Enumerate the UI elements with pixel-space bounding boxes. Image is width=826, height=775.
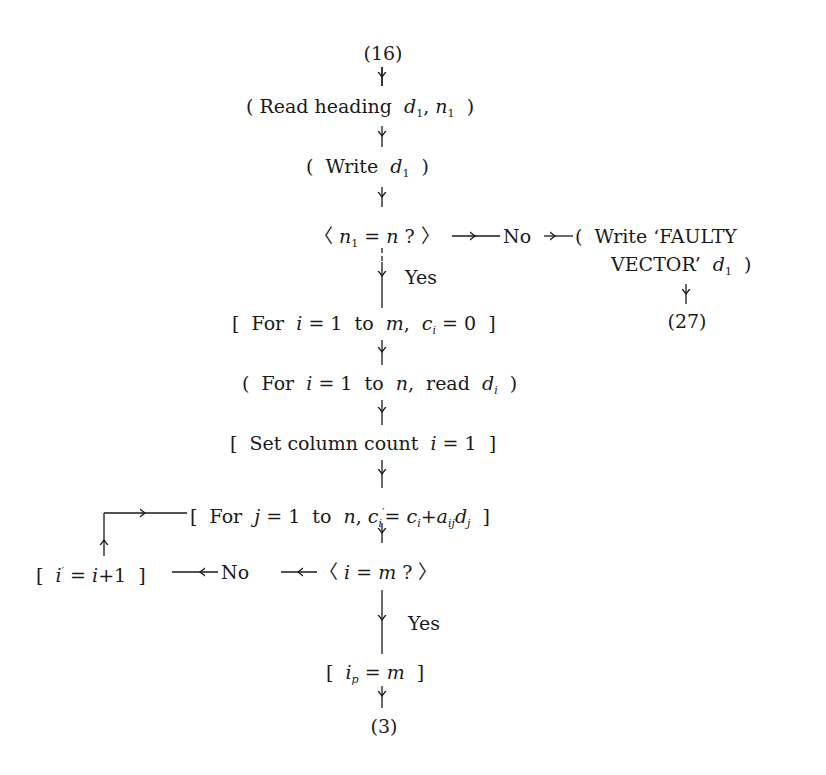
edge-label-yes: Yes bbox=[408, 612, 440, 634]
node-set-column-count: [ Set column count i = 1 ] bbox=[230, 432, 496, 454]
edge-label-yes: Yes bbox=[405, 266, 437, 288]
decision-i-equals-m: 〈 i = m ? 〉 bbox=[319, 561, 437, 583]
node-write-d1: ( Write d1 ) bbox=[306, 155, 429, 185]
node-write-faulty-vector: ( Write ‘FAULTY bbox=[575, 225, 737, 247]
connector-entry: (16) bbox=[363, 42, 402, 64]
node-increment-i: [ i′ = i+1 ] bbox=[36, 561, 146, 586]
node-init-c: [ For i = 1 to m, ci = 0 ] bbox=[232, 312, 496, 342]
decision-n1-equals-n: 〈 n1 = n ? 〉 bbox=[314, 225, 440, 255]
node-read-heading: ( Read heading d1, n1 ) bbox=[246, 95, 474, 125]
node-read-d: ( For i = 1 to n, read di ) bbox=[242, 372, 517, 402]
connector-exit: (3) bbox=[371, 715, 398, 737]
edge-label-no: No bbox=[503, 225, 531, 247]
node-set-ip: [ ip = m ] bbox=[326, 661, 424, 691]
edge-label-no: No bbox=[221, 561, 249, 583]
node-write-faulty-vector-line2: VECTOR’ d1 ) bbox=[611, 253, 751, 283]
node-accumulate: [ For j = 1 to n, ci′= ci+aijdj ] bbox=[190, 502, 490, 535]
connector-faulty-exit: (27) bbox=[667, 310, 706, 332]
